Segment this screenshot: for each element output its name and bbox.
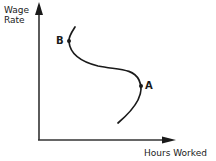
point-b-label: B [56, 36, 64, 46]
y-axis-label-line2: Rate [4, 15, 29, 25]
supply-curve [69, 27, 141, 123]
x-axis-label: Hours Worked [144, 148, 207, 158]
labor-supply-diagram [0, 0, 216, 161]
point-a-marker [139, 84, 143, 88]
x-axis-arrow-icon [162, 137, 176, 144]
y-axis-arrow-icon [35, 2, 43, 15]
y-axis-label-line1: Wage [4, 5, 29, 15]
point-a-label: A [145, 81, 153, 91]
y-axis-label: Wage Rate [4, 5, 29, 25]
point-b-marker [67, 39, 71, 43]
